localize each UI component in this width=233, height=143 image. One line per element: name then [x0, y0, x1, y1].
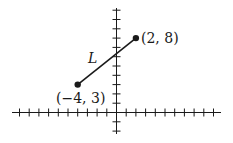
point-start-label: (−4, 3): [56, 90, 105, 106]
line-label: L: [87, 50, 97, 66]
line-segment-L: [78, 38, 136, 85]
coordinate-plane: L (2, 8) (−4, 3): [0, 0, 233, 143]
point-end-label: (2, 8): [141, 30, 179, 46]
point-start: [75, 81, 81, 87]
point-end: [133, 35, 139, 41]
